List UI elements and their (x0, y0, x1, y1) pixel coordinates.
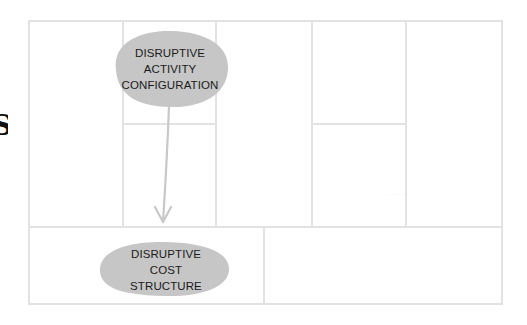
activity-configuration-node: DISRUPTIVE ACTIVITY CONFIGURATION (113, 34, 227, 104)
node-label-line: COST (150, 262, 182, 278)
node-label-line: CONFIGURATION (122, 77, 219, 93)
canvas-grid (29, 21, 502, 304)
node-label-line: DISRUPTIVE (131, 246, 201, 262)
canvas-outer-border (29, 21, 502, 304)
faint-cell-label: ········ ········ (388, 192, 410, 197)
business-model-canvas (0, 0, 527, 325)
cost-structure-node: DISRUPTIVE COST STRUCTURE (101, 246, 231, 294)
node-label-line: DISRUPTIVE (135, 45, 205, 61)
node-label-line: STRUCTURE (130, 278, 202, 294)
node-label-line: ACTIVITY (144, 61, 197, 77)
